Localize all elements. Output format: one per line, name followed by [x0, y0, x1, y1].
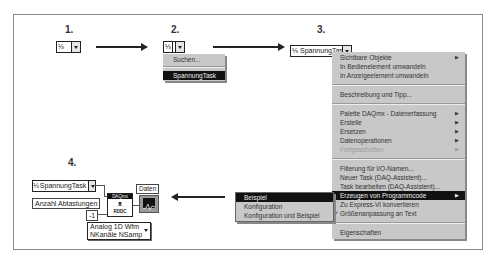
submenu-arrow-icon: ▶: [455, 136, 459, 145]
menu-separator: [332, 84, 465, 86]
menu-item-properties[interactable]: Eigenschaften: [332, 228, 465, 237]
task-name-control-empty[interactable]: ⅓: [56, 41, 81, 53]
menu-separator: [332, 222, 465, 224]
task-name-control-open[interactable]: ⅓: [163, 41, 185, 53]
submenu-item-configuration-and-example[interactable]: Konfiguration und Beispiel: [236, 211, 333, 220]
menu-item-spannungtask[interactable]: SpannungTask: [163, 71, 225, 80]
menu-item-advanced: Fortgeschritten▶: [332, 145, 465, 154]
arrow-to-4: [173, 196, 225, 198]
glasses-icon: ᴥ: [108, 199, 132, 209]
dropdown-arrow-icon[interactable]: [175, 42, 184, 52]
menu-item-daqmx-palette[interactable]: Palette DAQmx - Datenerfassung▶: [332, 109, 465, 118]
daqmx-read-vi[interactable]: DAQmx ᴥ RDDC: [107, 193, 133, 217]
menu-item-create[interactable]: Erstelle▶: [332, 118, 465, 127]
menu-item-edit-task[interactable]: Task bearbeiten (DAQ-Assistent)...: [332, 182, 465, 191]
polymorphic-selector[interactable]: Analog 1D Wfm NKanäle NSamp: [87, 222, 151, 240]
output-label: Daten: [136, 184, 159, 194]
menu-item-description-tip[interactable]: Beschreibung und Tipp...: [332, 90, 465, 99]
menu-separator: [332, 158, 465, 160]
arrow-1-to-2: [96, 46, 146, 48]
menu-item-search[interactable]: Suchen...: [163, 55, 225, 64]
generate-code-submenu: Beispiel Konfiguration Konfiguration und…: [235, 192, 334, 222]
task-icon: ⅓: [164, 42, 172, 52]
dropdown-arrow-icon: [144, 229, 148, 232]
samples-constant[interactable]: -1: [86, 210, 98, 221]
arrow-2-to-3: [213, 46, 283, 48]
menu-item-io-name-filtering[interactable]: Filterung für I/O-Namen...: [332, 164, 465, 173]
menu-item-size-to-text[interactable]: ✓Größenanpassung an Text: [332, 209, 465, 218]
waveform-graph-indicator[interactable]: [139, 195, 159, 213]
menu-separator: [163, 66, 225, 68]
dropdown-arrow-icon[interactable]: [71, 42, 80, 52]
menu-item-replace[interactable]: Ersetzen▶: [332, 127, 465, 136]
submenu-arrow-icon: ▶: [455, 145, 459, 154]
step-1-label: 1.: [65, 24, 73, 35]
menu-item-visible-items[interactable]: Sichtbare Objekte▶: [332, 53, 465, 62]
task-icon: ⅓: [57, 42, 65, 52]
menu-item-new-task[interactable]: Neuer Task (DAQ-Assistent)...: [332, 173, 465, 182]
menu-item-change-to-indicator[interactable]: In Anzeigeelement umwandeln: [332, 71, 465, 80]
step-4-label: 4.: [68, 157, 76, 168]
step-3-label: 3.: [317, 24, 325, 35]
menu-item-generate-code[interactable]: Erzeugen von Programmcode▶: [332, 191, 465, 200]
submenu-arrow-icon: ▶: [455, 127, 459, 136]
menu-item-data-operations[interactable]: Datenoperationen▶: [332, 136, 465, 145]
dropdown-arrow-icon[interactable]: [88, 181, 95, 191]
task-dropdown-menu: Suchen... SpannungTask: [163, 54, 225, 81]
submenu-arrow-icon: ▶: [455, 191, 459, 200]
task-constant[interactable]: ⅓ SpannungTask: [32, 180, 96, 192]
graph-icon: [143, 198, 155, 208]
submenu-arrow-icon: ▶: [455, 109, 459, 118]
step-2-label: 2.: [171, 24, 179, 35]
submenu-item-example[interactable]: Beispiel: [236, 193, 333, 202]
submenu-arrow-icon: ▶: [455, 118, 459, 127]
context-menu: Sichtbare Objekte▶ In Bedienelement umwa…: [332, 52, 465, 239]
submenu-arrow-icon: ▶: [455, 53, 459, 62]
task-icon: ⅓: [291, 46, 299, 56]
samples-label: Anzahl Abtastungen: [32, 198, 100, 209]
menu-item-convert-express-vi[interactable]: Zu Express-VI konvertieren: [332, 200, 465, 209]
submenu-item-configuration[interactable]: Konfiguration: [236, 202, 333, 211]
menu-separator: [332, 103, 465, 105]
task-wire: [104, 185, 105, 196]
menu-item-change-to-control[interactable]: In Bedienelement umwandeln: [332, 62, 465, 71]
